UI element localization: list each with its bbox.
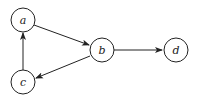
- node-b-label: b: [98, 44, 105, 57]
- node-b: b: [90, 38, 114, 62]
- node-d: d: [164, 38, 188, 62]
- edge-b-c: [36, 56, 90, 78]
- graph-canvas: a b c d: [0, 0, 197, 98]
- node-a-label: a: [20, 14, 27, 27]
- node-c: c: [11, 70, 35, 94]
- node-a: a: [11, 8, 35, 32]
- edge-a-b: [34, 25, 89, 45]
- node-c-label: c: [20, 76, 26, 89]
- node-d-label: d: [172, 44, 179, 57]
